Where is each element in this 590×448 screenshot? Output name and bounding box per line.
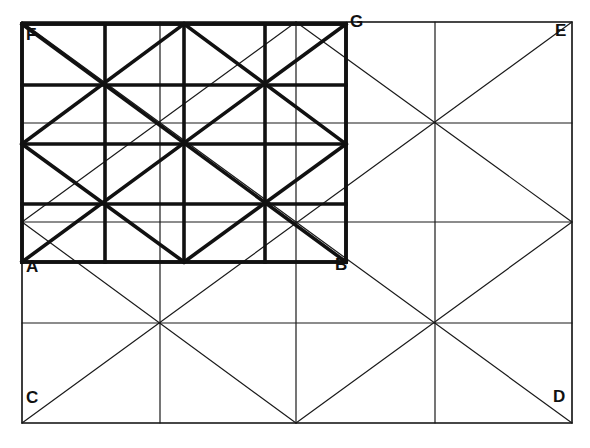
vertex-label-c: C	[26, 389, 38, 406]
vertex-label-g: G	[350, 13, 363, 30]
vertex-label-a: A	[26, 258, 38, 275]
vertex-label-f: F	[26, 26, 36, 43]
vertex-label-d: D	[553, 388, 565, 405]
vertex-label-b: B	[335, 256, 347, 273]
construction-diagram	[0, 0, 590, 448]
vertex-label-e: E	[555, 22, 566, 39]
